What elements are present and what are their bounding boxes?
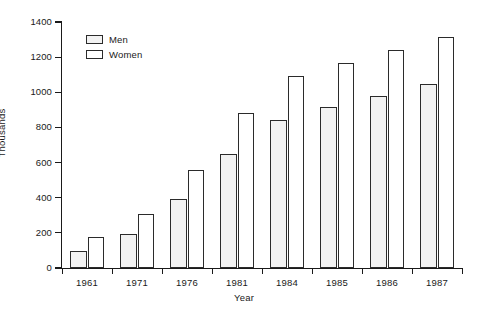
y-axis-tick xyxy=(55,197,62,198)
y-axis-tick-label: 1400 xyxy=(0,17,52,27)
y-axis-tick xyxy=(55,21,62,22)
x-axis-tick-label: 1981 xyxy=(212,278,262,288)
x-axis-title: Year xyxy=(0,293,488,303)
bar-men xyxy=(370,96,387,268)
y-axis-tick xyxy=(55,92,62,93)
legend-item: Men xyxy=(86,33,143,46)
x-axis-tick xyxy=(62,268,63,274)
y-axis-tick xyxy=(55,162,62,163)
legend-item: Women xyxy=(86,48,143,61)
y-axis-tick xyxy=(55,127,62,128)
bar-women xyxy=(438,37,455,268)
x-axis-tick-label: 1961 xyxy=(62,278,112,288)
legend-swatch-men xyxy=(86,35,103,44)
y-axis-tick-label: 0 xyxy=(0,263,52,273)
x-axis-tick-label: 1976 xyxy=(162,278,212,288)
y-axis-tick-label: 400 xyxy=(0,193,52,203)
bar-women xyxy=(388,50,405,268)
chart-legend: MenWomen xyxy=(86,33,143,63)
x-axis-tick xyxy=(162,268,163,274)
y-axis-title: Thousands xyxy=(0,109,7,158)
bar-men xyxy=(220,154,237,268)
y-axis-tick xyxy=(55,57,62,58)
y-axis-tick xyxy=(55,232,62,233)
x-axis-tick xyxy=(212,268,213,274)
bar-women xyxy=(288,76,305,268)
x-axis-tick xyxy=(412,268,413,274)
x-axis-tick xyxy=(362,268,363,274)
y-axis-tick-label: 600 xyxy=(0,158,52,168)
bar-chart: 0200400600800100012001400 19611971197619… xyxy=(0,0,488,318)
x-axis-tick-label: 1984 xyxy=(262,278,312,288)
bar-men xyxy=(120,234,137,268)
y-axis-tick xyxy=(55,267,62,268)
bar-men xyxy=(170,199,187,268)
y-axis-tick-label: 200 xyxy=(0,228,52,238)
bar-men xyxy=(70,251,87,268)
bar-women xyxy=(338,63,355,268)
bar-women xyxy=(138,214,155,268)
bar-men xyxy=(420,84,437,268)
y-axis-tick-label: 1200 xyxy=(0,52,52,62)
x-axis-tick xyxy=(462,268,463,274)
legend-label: Men xyxy=(109,34,128,46)
x-axis-tick-label: 1985 xyxy=(312,278,362,288)
bar-women xyxy=(238,113,255,269)
bar-women xyxy=(188,170,205,268)
x-axis-tick xyxy=(112,268,113,274)
bar-men xyxy=(270,120,287,268)
y-axis-tick-label: 800 xyxy=(0,122,52,132)
x-axis-tick xyxy=(262,268,263,274)
legend-label: Women xyxy=(109,49,143,61)
x-axis-tick-label: 1971 xyxy=(112,278,162,288)
x-axis-tick-label: 1987 xyxy=(412,278,462,288)
x-axis-tick-label: 1986 xyxy=(362,278,412,288)
x-axis-tick xyxy=(312,268,313,274)
bar-women xyxy=(88,237,105,268)
bar-men xyxy=(320,107,337,268)
y-axis-tick-label: 1000 xyxy=(0,87,52,97)
legend-swatch-women xyxy=(86,50,103,59)
